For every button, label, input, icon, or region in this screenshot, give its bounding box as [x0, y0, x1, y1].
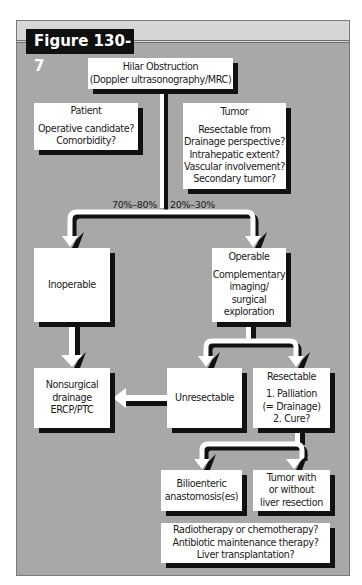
resectable-line-2: (= Drainage): [262, 401, 320, 413]
split-right-percent: 20%–30%: [170, 199, 215, 210]
node-hilar-obstruction: Hilar Obstruction (Doppler ultrasonograp…: [88, 58, 233, 89]
tumor-line-4: Vascular involvement?: [184, 161, 285, 173]
hilar-line-2: (Doppler ultrasonography/MRC): [90, 74, 232, 86]
node-patient: Patient Operative candidate? Comorbidity…: [34, 103, 138, 150]
nonsurgical-line-1: Nonsurgical: [46, 379, 99, 391]
operable-title: Operable: [228, 251, 269, 263]
bilioenteric-line-1: Bilioenteric: [177, 478, 227, 490]
node-bilioenteric-anastomosis: Bilioenteric anastomosis(es): [161, 470, 242, 511]
tumor-line-5: Secondary tumor?: [193, 173, 275, 185]
node-tumor: Tumor Resectable from Drainage perspecti…: [183, 103, 286, 189]
tumor-resection-line-3: liver resection: [260, 497, 323, 509]
unresectable-title: Unresectable: [175, 392, 234, 404]
node-inoperable: Inoperable: [34, 248, 110, 322]
operable-line-4: exploration: [224, 306, 274, 318]
tumor-title: Tumor: [221, 106, 249, 118]
resectable-line-1: 1. Palliation: [266, 388, 317, 400]
hilar-shadow-line: [164, 93, 168, 212]
patient-title: Patient: [71, 105, 102, 117]
patient-line-1: Operative candidate?: [38, 123, 134, 135]
node-tumor-resection: Tumor with or without liver resection: [253, 470, 330, 511]
operable-line-1: Complementary: [213, 269, 286, 281]
nonsurgical-line-2: drainage: [52, 392, 92, 404]
node-resectable: Resectable 1. Palliation (= Drainage) 2.…: [253, 368, 330, 428]
adjuvant-line-3: Liver transplantation?: [197, 549, 294, 561]
tumor-resection-line-1: Tumor with: [267, 472, 317, 484]
adjuvant-line-2: Antibiotic maintenance therapy?: [173, 537, 319, 549]
adjuvant-line-1: Radiotherapy or chemotherapy?: [173, 524, 318, 536]
tumor-line-1: Resectable from: [198, 124, 271, 136]
split-left-percent: 70%–80%: [112, 199, 157, 210]
hilar-line-1: Hilar Obstruction: [123, 61, 199, 73]
tumor-resection-line-2: or without: [269, 484, 314, 496]
operable-line-2: imaging/: [229, 281, 268, 293]
hilar-stem-line: [160, 89, 164, 208]
inoperable-title: Inoperable: [48, 279, 96, 291]
node-operable: Operable Complementary imaging/ surgical…: [212, 248, 286, 322]
bilioenteric-line-2: anastomosis(es): [165, 491, 238, 503]
tumor-line-2: Drainage perspective?: [184, 136, 285, 148]
tumor-line-3: Intrahepatic extent?: [189, 149, 279, 161]
node-adjuvant-therapy: Radiotherapy or chemotherapy? Antibiotic…: [161, 523, 330, 563]
node-unresectable: Unresectable: [167, 368, 242, 428]
node-nonsurgical-drainage: Nonsurgical drainage ERCP/PTC: [34, 368, 110, 428]
operable-line-3: surgical: [232, 294, 267, 306]
patient-line-2: Comorbidity?: [56, 135, 116, 147]
nonsurgical-line-3: ERCP/PTC: [51, 404, 94, 416]
resectable-line-3: 2. Cure?: [273, 413, 310, 425]
resectable-title: Resectable: [267, 371, 316, 383]
